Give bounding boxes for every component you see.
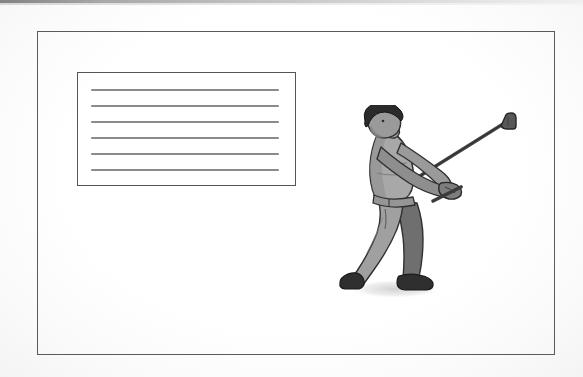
- rule-line: [91, 137, 279, 139]
- right-shoe: [397, 274, 433, 290]
- scanned-page: [0, 0, 583, 377]
- left-leg: [349, 199, 403, 285]
- golfer-swing-illustration: [337, 105, 527, 300]
- rule-line: [91, 105, 279, 107]
- rule-line: [91, 169, 279, 171]
- lined-text-box[interactable]: [77, 72, 296, 186]
- rule-line-group: [91, 89, 279, 186]
- left-shoe: [340, 273, 364, 289]
- rule-line: [91, 153, 279, 155]
- rule-line: [91, 121, 279, 123]
- eye: [382, 120, 385, 123]
- scanner-edge-band-secondary-icon: [0, 3, 583, 5]
- rule-line: [91, 89, 279, 91]
